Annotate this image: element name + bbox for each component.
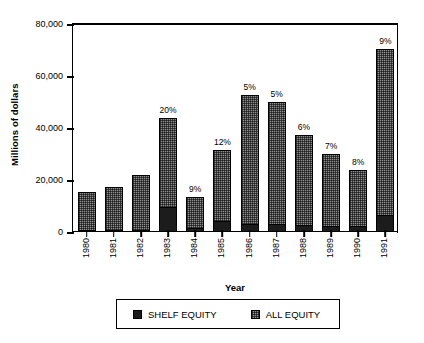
x-axis-tick-label: 1983 [162, 238, 172, 258]
legend-label-all-equity: ALL EQUITY [266, 309, 321, 320]
x-axis-tick-label: 1981 [108, 238, 118, 258]
bar-percent-annotation: 5% [271, 89, 283, 99]
bar-group[interactable]: 5% [263, 24, 290, 231]
x-axis-tick-label: 1982 [135, 238, 145, 258]
bar-segment-shelf-equity[interactable] [376, 215, 394, 231]
bar-segment-all-equity[interactable] [268, 102, 286, 231]
x-axis-tick [276, 230, 278, 237]
bar-group[interactable] [127, 24, 154, 231]
x-axis-tick-label: 1987 [271, 238, 281, 258]
chart-figure: Millions of dollars 020,00040,00060,0008… [0, 0, 424, 343]
bar-segment-all-equity[interactable] [376, 49, 394, 231]
x-axis-tick-label: 1984 [189, 238, 199, 258]
x-axis-tick [249, 230, 251, 237]
x-axis-tick [167, 230, 169, 237]
x-axis-tick-label: 1986 [244, 238, 254, 258]
bar-segment-all-equity[interactable] [105, 187, 123, 231]
x-axis-tick [357, 230, 359, 237]
y-axis-title: Millions of dollars [6, 50, 22, 200]
x-axis-tick-label: 1985 [216, 238, 226, 258]
bar-percent-annotation: 8% [352, 157, 364, 167]
x-axis-tick [113, 230, 115, 237]
x-axis-tick [385, 230, 387, 237]
bar-segment-all-equity[interactable] [241, 95, 259, 232]
bar-group[interactable] [73, 24, 100, 231]
x-axis-tick-label: 1991 [379, 238, 389, 258]
x-axis-tick-label: 1990 [352, 238, 362, 258]
bar-group[interactable]: 8% [345, 24, 372, 231]
legend-item-all-equity: ALL EQUITY [251, 309, 321, 320]
bar-percent-annotation: 7% [325, 141, 337, 151]
x-axis-tick [86, 230, 88, 237]
bar-percent-annotation: 9% [189, 184, 201, 194]
bar-segment-all-equity[interactable] [349, 170, 367, 231]
bar-percent-annotation: 20% [160, 105, 177, 115]
x-axis-tick-label: 1980 [81, 238, 91, 258]
legend-swatch-all-equity [251, 310, 260, 319]
x-axis-tick [194, 230, 196, 237]
bar-group[interactable]: 9% [182, 24, 209, 231]
bar-segment-all-equity[interactable] [132, 175, 150, 231]
bar-group[interactable]: 5% [236, 24, 263, 231]
x-axis-tick-label: 1988 [298, 238, 308, 258]
bar-segment-all-equity[interactable] [295, 135, 313, 231]
chart-legend: SHELF EQUITY ALL EQUITY [116, 299, 340, 329]
x-axis-tick [330, 230, 332, 237]
bar-group[interactable]: 6% [290, 24, 317, 231]
bar-segment-all-equity[interactable] [213, 150, 231, 231]
bar-segment-all-equity[interactable] [322, 154, 340, 231]
bar-group[interactable]: 9% [372, 24, 399, 231]
bar-percent-annotation: 5% [243, 82, 255, 92]
x-axis-tick [140, 230, 142, 237]
legend-swatch-shelf-equity [133, 310, 142, 319]
legend-item-shelf-equity: SHELF EQUITY [133, 309, 217, 320]
bar-group[interactable]: 12% [209, 24, 236, 231]
bar-group[interactable] [100, 24, 127, 231]
legend-label-shelf-equity: SHELF EQUITY [148, 309, 217, 320]
y-axis-tick-label: 0 [58, 227, 63, 237]
y-axis-tick-label: 60,000 [35, 71, 63, 81]
bar-group[interactable]: 20% [155, 24, 182, 231]
y-axis-tick-label: 20,000 [35, 175, 63, 185]
bar-segment-all-equity[interactable] [78, 192, 96, 231]
bar-percent-annotation: 9% [379, 36, 391, 46]
bar-segment-all-equity[interactable] [186, 197, 204, 231]
bar-series-group: 20%9%12%5%5%6%7%8%9% [73, 24, 398, 231]
x-axis-tick [303, 230, 305, 237]
bar-percent-annotation: 12% [214, 137, 231, 147]
y-axis-tick-label: 40,000 [35, 123, 63, 133]
y-axis-tick [67, 232, 74, 234]
x-axis-tick [222, 230, 224, 237]
bar-group[interactable]: 7% [318, 24, 345, 231]
bar-segment-shelf-equity[interactable] [159, 207, 177, 231]
plot-area: 020,00040,00060,00080,000 20%9%12%5%5%6%… [72, 24, 398, 232]
x-axis-tick-label: 1989 [325, 238, 335, 258]
x-axis-title: Year [72, 282, 398, 293]
bar-percent-annotation: 6% [298, 122, 310, 132]
y-axis-tick-label: 80,000 [35, 19, 63, 29]
